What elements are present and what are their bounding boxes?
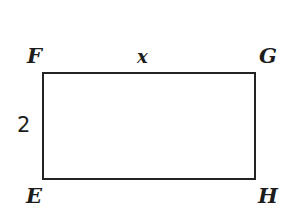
vertex-label-h: H (258, 185, 278, 206)
vertex-label-e: E (26, 185, 42, 206)
vertex-label-f: F (27, 45, 42, 66)
rectangle-shape (42, 72, 256, 180)
geometry-figure: F G E H x 2 (0, 0, 288, 216)
side-label-top-x: x (137, 48, 148, 66)
side-label-left-2: 2 (17, 115, 30, 136)
vertex-label-g: G (259, 45, 277, 66)
